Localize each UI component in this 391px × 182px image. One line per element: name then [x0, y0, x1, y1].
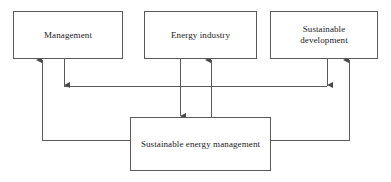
edge-sem-to-sustdev: [271, 63, 349, 140]
node-sustainable-development-label: Sustainable development: [297, 24, 351, 46]
edge-sem-to-management: [42, 63, 130, 140]
node-management-label: Management: [41, 30, 95, 41]
node-sustainable-energy-management[interactable]: Sustainable energy management: [130, 117, 271, 171]
node-sustainable-development[interactable]: Sustainable development: [270, 11, 378, 59]
edge-management-to-sustdev: [64, 59, 327, 86]
diagram-canvas: Management Energy industry Sustainable d…: [0, 0, 391, 182]
node-energy-industry-label: Energy industry: [168, 30, 233, 41]
node-sustainable-energy-management-label: Sustainable energy management: [138, 139, 263, 150]
node-management[interactable]: Management: [13, 11, 123, 59]
node-energy-industry[interactable]: Energy industry: [144, 11, 257, 59]
